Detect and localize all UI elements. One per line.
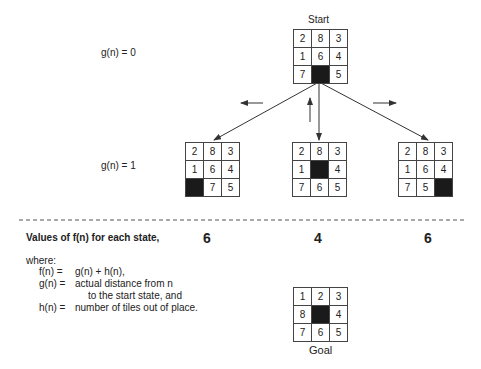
g-def-rhs-cont: to the start state, and xyxy=(88,290,182,301)
tile: 3 xyxy=(330,30,347,47)
blank-tile xyxy=(435,179,452,196)
tile: 4 xyxy=(330,48,347,65)
f-def-rhs: g(n) + h(n), xyxy=(75,266,125,277)
tile: 7 xyxy=(294,324,311,341)
h-def-lhs: h(n) = xyxy=(39,302,65,313)
tile: 2 xyxy=(293,143,310,160)
tile: 8 xyxy=(417,143,434,160)
tile: 6 xyxy=(311,179,328,196)
g1-label: g(n) = 1 xyxy=(101,160,136,171)
blank-tile xyxy=(312,66,329,83)
right-child-puzzle: 28316475 xyxy=(398,142,453,197)
tile: 6 xyxy=(204,161,221,178)
f-value-left: 6 xyxy=(203,230,211,246)
tile: 4 xyxy=(330,306,347,323)
tile: 5 xyxy=(222,179,239,196)
tile: 2 xyxy=(312,288,329,305)
tile: 4 xyxy=(435,161,452,178)
g-def-lhs: g(n) = xyxy=(39,278,65,289)
tile: 1 xyxy=(294,288,311,305)
tile: 3 xyxy=(330,288,347,305)
h-def-rhs: number of tiles out of place. xyxy=(75,302,198,313)
middle-child-puzzle: 28314765 xyxy=(292,142,347,197)
tile: 3 xyxy=(222,143,239,160)
g0-label: g(n) = 0 xyxy=(101,47,136,58)
g-def-rhs: actual distance from n xyxy=(75,278,173,289)
f-def-lhs: f(n) = xyxy=(39,266,63,277)
goal-label: Goal xyxy=(309,344,332,356)
blank-tile xyxy=(311,161,328,178)
tile: 4 xyxy=(329,161,346,178)
tile: 7 xyxy=(294,66,311,83)
tile: 3 xyxy=(329,143,346,160)
tile: 8 xyxy=(312,30,329,47)
tile: 6 xyxy=(417,161,434,178)
tile: 2 xyxy=(399,143,416,160)
blank-tile xyxy=(186,179,203,196)
tile: 1 xyxy=(293,161,310,178)
tile: 8 xyxy=(204,143,221,160)
tile: 7 xyxy=(293,179,310,196)
tile: 6 xyxy=(312,324,329,341)
tile: 5 xyxy=(330,66,347,83)
tile: 5 xyxy=(329,179,346,196)
tile: 1 xyxy=(399,161,416,178)
tile: 1 xyxy=(186,161,203,178)
tile: 2 xyxy=(294,30,311,47)
tile: 7 xyxy=(204,179,221,196)
tile: 7 xyxy=(399,179,416,196)
tile: 1 xyxy=(294,48,311,65)
goal-puzzle: 12384765 xyxy=(293,287,348,342)
tile: 3 xyxy=(435,143,452,160)
f-value-middle: 4 xyxy=(314,230,322,246)
fn-values-title: Values of f(n) for each state, xyxy=(26,232,159,243)
tile: 6 xyxy=(312,48,329,65)
tile: 8 xyxy=(311,143,328,160)
blank-tile xyxy=(312,306,329,323)
tile: 5 xyxy=(417,179,434,196)
where-label: where: xyxy=(26,255,56,266)
tile: 5 xyxy=(330,324,347,341)
tile: 2 xyxy=(186,143,203,160)
tile: 4 xyxy=(222,161,239,178)
tile: 8 xyxy=(294,306,311,323)
start-label: Start xyxy=(308,14,329,25)
f-value-right: 6 xyxy=(424,230,432,246)
left-child-puzzle: 28316475 xyxy=(185,142,240,197)
start-puzzle: 28316475 xyxy=(293,29,348,84)
